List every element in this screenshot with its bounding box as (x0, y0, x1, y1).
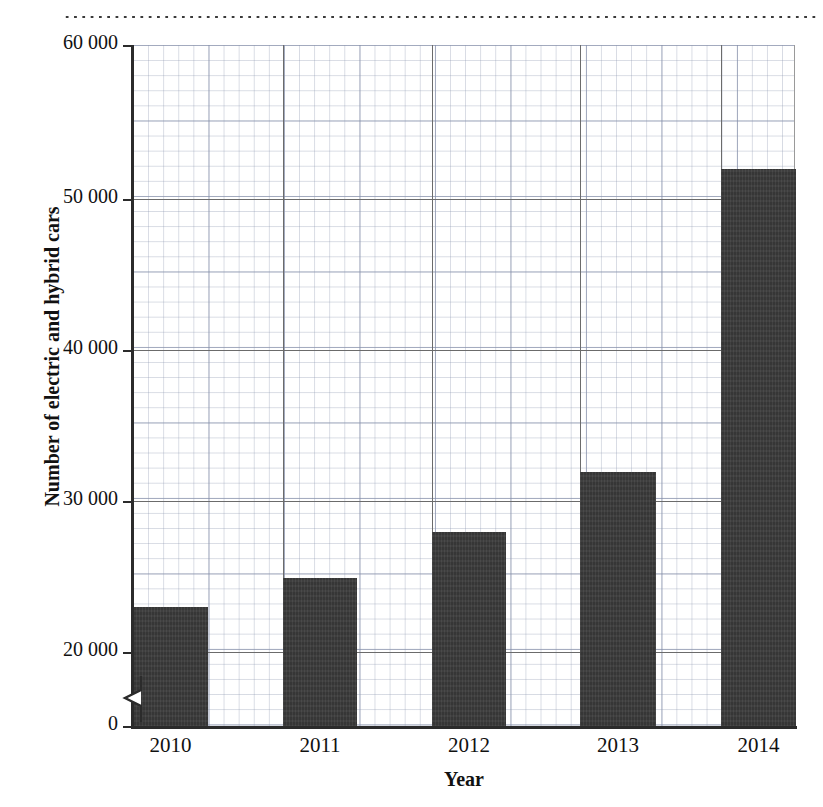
bar-2013 (580, 472, 656, 727)
x-tick-label-2013: 2013 (580, 733, 656, 758)
y-tick-label-20000: 20 000 (63, 638, 118, 661)
gridline-40000 (133, 350, 795, 351)
y-tick-40000 (123, 350, 132, 352)
y-tick-label-50000: 50 000 (63, 185, 118, 208)
y-tick-50000 (123, 199, 132, 201)
x-axis-title: Year (133, 768, 795, 791)
y-tick-label-30000: 30 000 (63, 487, 118, 510)
x-tick-label-2010: 2010 (133, 733, 208, 758)
y-tick-label-60000: 60 000 (63, 31, 118, 54)
x-tick-label-2012: 2012 (432, 733, 506, 758)
y-tick-0 (123, 726, 132, 728)
axis-break-icon (119, 676, 143, 722)
y-axis-title: Number of electric and hybrid cars (41, 77, 64, 637)
x-tick-label-2011: 2011 (283, 733, 357, 758)
y-tick-label-0: 0 (108, 712, 118, 735)
bar-2010 (133, 607, 208, 727)
x-axis-line (131, 726, 797, 729)
chart-page: 60 000 50 000 40 000 30 000 20 000 0 201… (0, 0, 823, 807)
y-tick-30000 (123, 501, 132, 503)
bar-2014 (721, 169, 796, 727)
y-tick-60000 (123, 45, 132, 47)
y-axis-line (131, 45, 134, 728)
gridline-30000 (133, 501, 795, 502)
top-dotted-rule (63, 14, 820, 18)
y-tick-label-40000: 40 000 (63, 336, 118, 359)
bar-2012 (432, 532, 506, 727)
x-tick-label-2014: 2014 (721, 733, 796, 758)
plot-area (133, 45, 795, 727)
gridline-50000 (133, 199, 795, 200)
y-tick-20000 (123, 652, 132, 654)
bar-2011 (283, 578, 357, 727)
